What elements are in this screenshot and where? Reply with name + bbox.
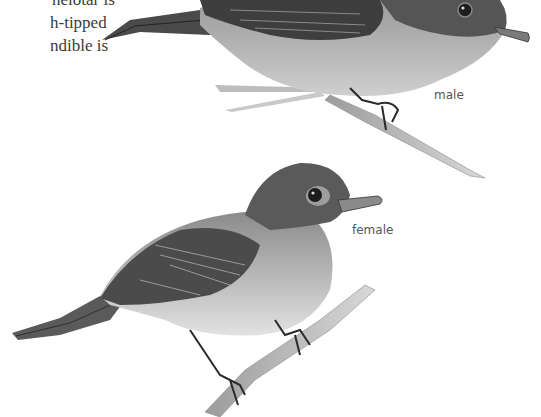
male-bird-illustration xyxy=(102,0,530,178)
eye xyxy=(308,188,322,202)
caption-male: male xyxy=(434,88,464,102)
head xyxy=(245,163,350,230)
bird-illustrations xyxy=(0,0,541,417)
branch xyxy=(325,95,485,178)
caption-female: female xyxy=(352,223,393,237)
female-bird-illustration xyxy=(12,163,382,417)
eye xyxy=(458,3,472,17)
